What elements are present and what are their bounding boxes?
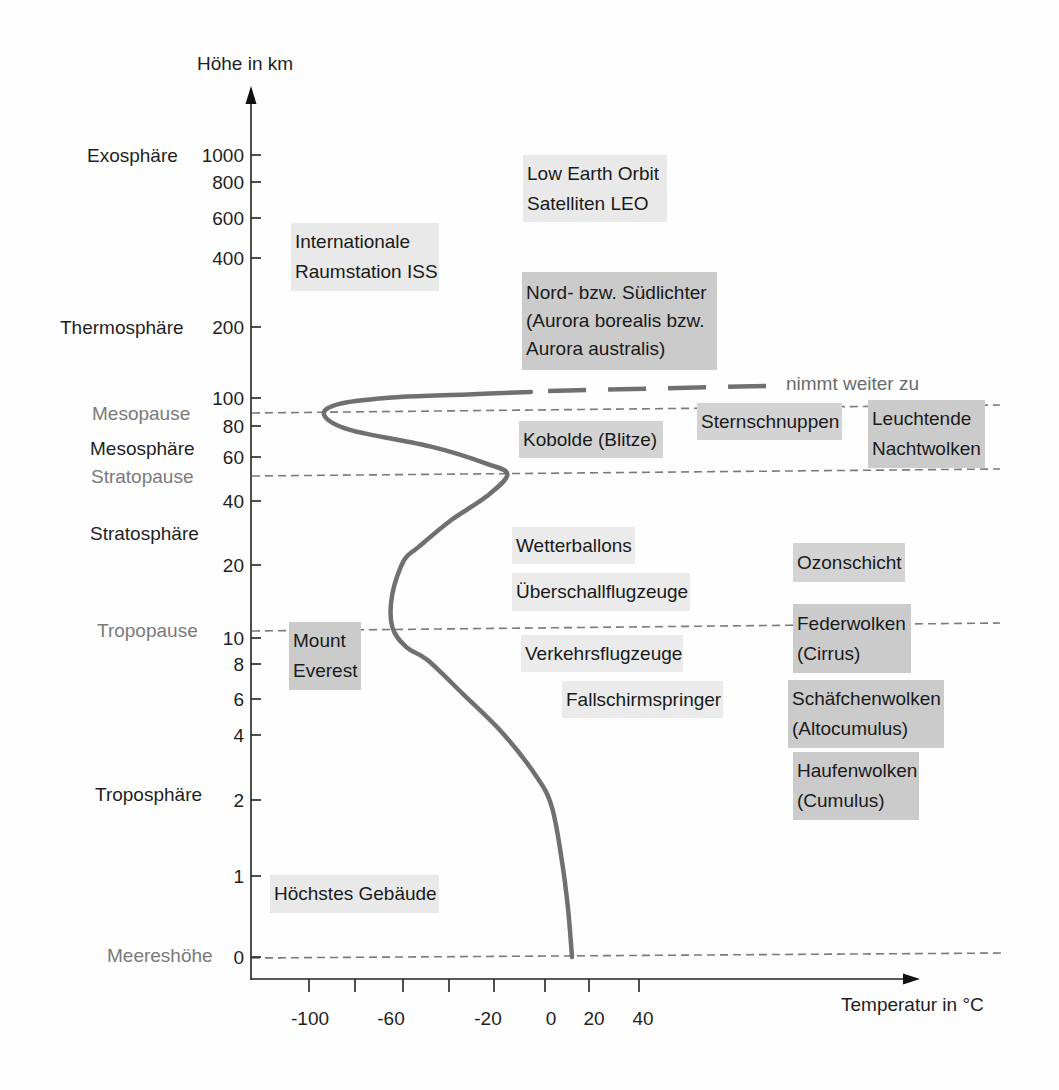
temperature-curve xyxy=(324,392,572,957)
annotation-line: Haufenwolken xyxy=(797,756,919,786)
annotation-line: Nord- bzw. Südlichter xyxy=(526,279,717,307)
annotation-line: Wetterballons xyxy=(516,531,635,561)
annotation-leo: Low Earth Orbit Satelliten LEO xyxy=(523,155,667,222)
y-tick-label: 200 xyxy=(212,318,244,337)
boundary-label-tropopause: Tropopause xyxy=(97,621,198,640)
x-tick-label: -60 xyxy=(377,1009,404,1028)
x-tick-label: -100 xyxy=(291,1009,329,1028)
annotation-line: Internationale xyxy=(295,227,439,257)
annotation-line: Sternschnuppen xyxy=(701,407,842,437)
annotation-line: Everest xyxy=(293,656,361,686)
annotation-mount-everest: Mount Everest xyxy=(289,622,361,690)
stratopause-line xyxy=(252,469,1000,476)
y-tick-label: 4 xyxy=(233,726,244,745)
annotation-line: Höchstes Gebäude xyxy=(274,879,439,909)
boundary-label-stratopause: Stratopause xyxy=(91,467,193,486)
y-axis-arrow-icon xyxy=(246,86,257,104)
annotation-line: Aurora australis) xyxy=(526,335,717,363)
y-tick-label: 100 xyxy=(212,389,244,408)
y-tick-label: 800 xyxy=(212,173,244,192)
annotation-line: Federwolken xyxy=(797,609,911,639)
annotation-line: Fallschirmspringer xyxy=(566,685,723,715)
y-tick-label: 1000 xyxy=(202,146,244,165)
y-tick-label: 20 xyxy=(223,556,244,575)
x-tick-label: 40 xyxy=(632,1009,653,1028)
annotation-aurora: Nord- bzw. Südlichter (Aurora borealis b… xyxy=(522,272,717,370)
y-tick-label: 60 xyxy=(223,448,244,467)
x-tick-label: 20 xyxy=(583,1009,604,1028)
x-tick-label: -20 xyxy=(474,1009,501,1028)
layer-label-thermosphere: Thermosphäre xyxy=(60,318,184,337)
annotation-line: Ozonschicht xyxy=(797,548,905,578)
annotation-skydivers: Fallschirmspringer xyxy=(562,681,723,718)
annotation-iss: Internationale Raumstation ISS xyxy=(291,223,439,291)
annotation-line: Mount xyxy=(293,626,361,656)
boundary-label-sea-level: Meereshöhe xyxy=(107,946,213,965)
x-axis-ticks xyxy=(309,979,639,992)
y-tick-label: 6 xyxy=(233,690,244,709)
annotation-ozone-layer: Ozonschicht xyxy=(793,543,905,582)
y-tick-label: 8 xyxy=(233,655,244,674)
annotation-line: Low Earth Orbit xyxy=(527,159,667,189)
annotation-line: Nachtwolken xyxy=(872,434,985,464)
annotation-line: Leuchtende xyxy=(872,404,985,434)
y-tick-label: 400 xyxy=(212,249,244,268)
atmosphere-temperature-chart: Höhe in km Temperatur in °C 1000 800 600… xyxy=(0,0,1059,1090)
layer-label-stratosphere: Stratosphäre xyxy=(90,524,199,543)
annotation-noctilucent-clouds: Leuchtende Nachtwolken xyxy=(868,400,985,468)
x-tick-label: 0 xyxy=(546,1009,557,1028)
annotation-supersonic-aircraft: Überschallflugzeuge xyxy=(512,573,690,611)
annotation-cirrus: Federwolken (Cirrus) xyxy=(793,604,911,673)
y-axis-ticks xyxy=(251,155,261,957)
annotation-altocumulus: Schäfchenwolken (Altocumulus) xyxy=(788,680,944,748)
annotation-cumulus: Haufenwolken (Cumulus) xyxy=(793,752,919,820)
y-tick-label: 600 xyxy=(212,209,244,228)
layer-label-mesosphere: Mesosphäre xyxy=(90,439,195,458)
sea-level-line xyxy=(252,953,1005,958)
layer-label-troposphere: Troposphäre xyxy=(95,785,202,804)
y-tick-label: 40 xyxy=(223,492,244,511)
annotation-line: (Altocumulus) xyxy=(792,714,944,744)
annotation-line: Satelliten LEO xyxy=(527,189,667,219)
extrapolation-note: nimmt weiter zu xyxy=(786,374,919,393)
annotation-line: Raumstation ISS xyxy=(295,257,439,287)
annotation-line: (Aurora borealis bzw. xyxy=(526,307,717,335)
y-tick-label: 2 xyxy=(233,791,244,810)
boundary-label-mesopause: Mesopause xyxy=(92,404,190,423)
annotation-airliners: Verkehrsflugzeuge xyxy=(521,635,683,672)
annotation-weather-balloons: Wetterballons xyxy=(512,527,635,564)
annotation-line: Verkehrsflugzeuge xyxy=(525,639,683,669)
annotation-line: Kobolde (Blitze) xyxy=(523,425,663,455)
annotation-shooting-stars: Sternschnuppen xyxy=(697,403,842,440)
annotation-line: (Cirrus) xyxy=(797,639,911,669)
annotation-tallest-building: Höchstes Gebäude xyxy=(270,875,439,913)
x-axis-arrow-icon xyxy=(903,974,920,985)
y-tick-label: 1 xyxy=(233,867,244,886)
y-tick-label: 0 xyxy=(233,948,244,967)
temperature-curve-extrapolation xyxy=(548,386,771,391)
layer-label-exosphere: Exosphäre xyxy=(87,146,178,165)
annotation-sprites: Kobolde (Blitze) xyxy=(519,421,663,458)
y-tick-label: 10 xyxy=(223,629,244,648)
y-axis-title: Höhe in km xyxy=(197,54,293,73)
annotation-line: Schäfchenwolken xyxy=(792,684,944,714)
y-tick-label: 80 xyxy=(223,417,244,436)
annotation-line: Überschallflugzeuge xyxy=(516,577,690,607)
x-axis-title: Temperatur in °C xyxy=(841,995,984,1014)
annotation-line: (Cumulus) xyxy=(797,786,919,816)
